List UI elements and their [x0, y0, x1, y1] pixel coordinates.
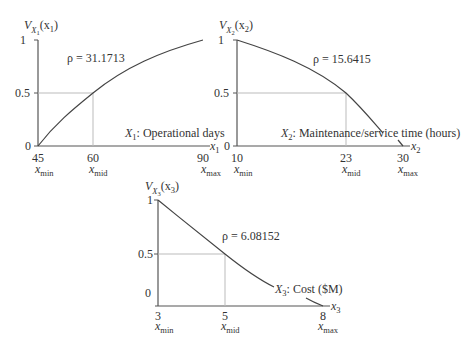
- value-functions-figure: VX1(x1) 1 0.5 0 ρ = 31.1713 X1: Operatio…: [0, 0, 464, 347]
- rho-label: ρ = 31.1713: [67, 51, 125, 65]
- x-axis-label: x1: [209, 139, 220, 155]
- x-label-mid: xmid: [220, 319, 240, 335]
- y-tick-0: 0: [25, 139, 31, 153]
- x-label-max: xmax: [317, 319, 339, 335]
- x-label-min: xmin: [154, 319, 174, 335]
- y-tick-1: 1: [147, 193, 153, 207]
- x-label-min: xmin: [34, 162, 54, 178]
- x-axis-label: x3: [330, 299, 341, 315]
- series-annotation: X3: Cost ($M): [274, 282, 343, 298]
- x-axis-label: x2: [410, 139, 421, 155]
- chart-1: VX1(x1) 1 0.5 0 ρ = 31.1713 X1: Operatio…: [15, 18, 225, 178]
- y-tick-0.5: 0.5: [15, 86, 30, 100]
- value-curve: [158, 200, 274, 287]
- y-axis-label: VX2(x2): [219, 18, 253, 36]
- chart-2: VX2(x2) 1 0.5 0 ρ = 15.6415 X2: Maintena…: [214, 18, 460, 178]
- y-tick-0.5: 0.5: [214, 86, 229, 100]
- y-tick-0: 0: [224, 139, 230, 153]
- y-tick-0.5: 0.5: [138, 247, 153, 261]
- x-label-max: xmax: [200, 162, 222, 178]
- rho-label: ρ = 15.6415: [313, 52, 371, 66]
- y-tick-1: 1: [218, 33, 224, 47]
- x-label-min: xmin: [233, 162, 253, 178]
- series-annotation: X2: Maintenance/service time (hours): [280, 126, 460, 142]
- value-curve-tail: [306, 298, 323, 306]
- value-curve-tail: [398, 140, 403, 146]
- rho-label: ρ = 6.08152: [222, 229, 280, 243]
- y-axis-label: VX1(x1): [24, 18, 58, 36]
- chart-3: VX3(x3) 1 0.5 0 ρ = 6.08152 X3: Cost ($M…: [138, 179, 343, 335]
- y-tick-1: 1: [20, 33, 26, 47]
- y-tick-0: 0: [145, 286, 151, 300]
